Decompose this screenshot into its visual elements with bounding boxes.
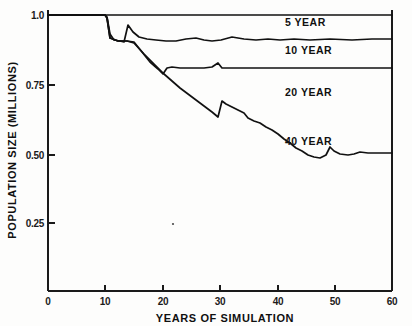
x-axis-title: YEARS OF SIMULATION <box>156 312 294 324</box>
x-tick-label-30: 30 <box>215 296 226 307</box>
y-tick-label-0.75: 0.75 <box>26 80 45 91</box>
x-tick-label-50: 50 <box>330 296 341 307</box>
x-tick-label-0: 0 <box>45 296 51 307</box>
x-tick-label-40: 40 <box>273 296 284 307</box>
y-tick-label-1.0: 1.0 <box>31 10 45 21</box>
x-tick-label-60: 60 <box>387 296 398 307</box>
x-tick-label-10: 10 <box>100 296 111 307</box>
chart-figure: 1.0 0.75 0.50 0.25 0 10 20 30 40 50 60 Y… <box>0 0 412 326</box>
series-line-20-year <box>48 15 392 74</box>
x-tick-label-20: 20 <box>158 296 169 307</box>
series-label-40-year: 40 YEAR <box>285 135 332 147</box>
population-simulation-line-chart: 1.0 0.75 0.50 0.25 0 10 20 30 40 50 60 Y… <box>0 0 412 326</box>
y-axis-title: POPULATION SIZE (MILLIONS) <box>6 61 18 238</box>
series-label-20-year: 20 YEAR <box>285 86 332 98</box>
y-tick-label-0.50: 0.50 <box>26 150 45 161</box>
series-label-5-year: 5 YEAR <box>285 16 326 28</box>
series-label-10-year: 10 YEAR <box>285 44 332 56</box>
scan-speck <box>172 223 174 225</box>
y-tick-label-0.25: 0.25 <box>26 218 45 229</box>
series-line-10-year <box>48 15 392 42</box>
series-line-40-year <box>48 15 392 158</box>
